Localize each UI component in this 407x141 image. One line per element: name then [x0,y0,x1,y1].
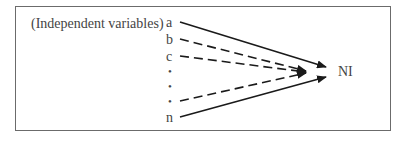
arrow-n [180,77,326,117]
arrow-c [180,56,306,72]
arrows-layer [0,0,407,141]
